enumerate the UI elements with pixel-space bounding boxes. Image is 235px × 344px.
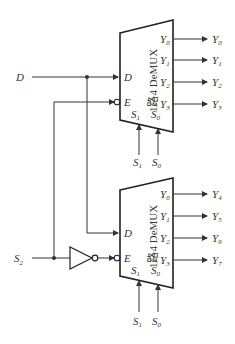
selects-top: S1 S0 xyxy=(133,125,162,170)
svg-text:Y0: Y0 xyxy=(212,33,222,47)
wire-d-bottom xyxy=(87,77,118,233)
svg-text:Y1: Y1 xyxy=(212,54,222,68)
demux-top: D E S1 S0 1路4 DeMUX Y0 Y1 Y2 Y3 xyxy=(114,20,173,132)
svg-text:Y3: Y3 xyxy=(212,98,222,112)
pin-e-bottom: E xyxy=(123,252,131,264)
demux-top-title: 1路4 DeMUX xyxy=(147,49,159,112)
enable-bubble-bottom xyxy=(114,255,120,261)
demux-bottom: D E S1 S0 1路4 DeMUX Y0 Y1 Y2 Y3 xyxy=(114,178,173,288)
svg-text:Y7: Y7 xyxy=(212,254,222,268)
selects-bottom: S1 S0 xyxy=(133,281,162,329)
inverter-gate xyxy=(70,247,98,269)
input-s2-label: S2 xyxy=(14,252,24,267)
svg-text:Y5: Y5 xyxy=(212,210,222,224)
svg-text:S1: S1 xyxy=(133,315,142,329)
svg-text:S0: S0 xyxy=(152,156,162,170)
pin-e-top: E xyxy=(123,96,131,108)
enable-bubble-top xyxy=(114,99,120,105)
demux-diagram: D S2 D E S1 S0 1路4 DeMUX Y0 Y1 Y2 Y3 Y0 … xyxy=(0,0,235,344)
svg-text:Y4: Y4 xyxy=(212,188,222,202)
svg-text:S0: S0 xyxy=(152,315,162,329)
svg-text:S1: S1 xyxy=(133,156,142,170)
wire-s2-top-enable xyxy=(54,102,114,258)
svg-text:Y2: Y2 xyxy=(212,76,222,90)
pin-d-top: D xyxy=(123,71,132,83)
outputs-top: Y0 Y1 Y2 Y3 xyxy=(173,33,222,112)
input-d-label: D xyxy=(15,71,24,83)
svg-text:Y6: Y6 xyxy=(212,232,222,246)
outputs-bottom: Y4 Y5 Y6 Y7 xyxy=(173,188,222,268)
demux-bottom-title: 1路4 DeMUX xyxy=(147,205,159,268)
pin-d-bottom: D xyxy=(123,227,132,239)
